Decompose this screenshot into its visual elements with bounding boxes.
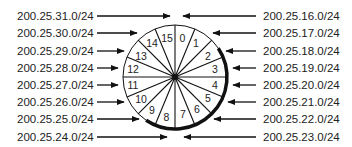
segment-4: 4 bbox=[212, 79, 218, 91]
right-label-22: 200.25.22.0/24 bbox=[263, 113, 340, 125]
left-label-27: 200.25.27.0/24 bbox=[17, 79, 94, 91]
left-label-26: 200.25.26.0/24 bbox=[17, 96, 94, 108]
left-label-28: 200.25.28.0/24 bbox=[17, 62, 94, 74]
right-label-17: 200.25.17.0/24 bbox=[263, 27, 340, 39]
left-label-29: 200.25.29.0/24 bbox=[17, 45, 94, 57]
left-label-24: 200.25.24.0/24 bbox=[17, 131, 94, 143]
right-label-19: 200.25.19.0/24 bbox=[263, 62, 340, 74]
left-label-30: 200.25.30.0/24 bbox=[17, 27, 94, 39]
left-subnet-labels: 200.25.31.0/24 200.25.30.0/24 200.25.29.… bbox=[17, 10, 94, 143]
segment-15: 15 bbox=[161, 32, 173, 44]
segment-12: 12 bbox=[127, 63, 139, 75]
segment-11: 11 bbox=[128, 79, 139, 91]
left-label-31: 200.25.31.0/24 bbox=[17, 10, 94, 22]
right-label-18: 200.25.18.0/24 bbox=[263, 45, 340, 57]
left-label-25: 200.25.25.0/24 bbox=[17, 113, 94, 125]
segment-3: 3 bbox=[212, 63, 218, 75]
segment-5: 5 bbox=[205, 92, 211, 104]
segment-9: 9 bbox=[149, 104, 155, 116]
wheel-hub bbox=[172, 74, 178, 80]
subnet-wheel-diagram: 0 1 2 3 4 5 6 7 8 9 10 11 12 13 14 15 20… bbox=[0, 0, 352, 147]
segment-0: 0 bbox=[180, 32, 186, 44]
right-label-23: 200.25.23.0/24 bbox=[263, 131, 340, 143]
segment-10: 10 bbox=[135, 93, 147, 105]
segment-6: 6 bbox=[194, 103, 200, 115]
segment-14: 14 bbox=[146, 37, 158, 49]
segment-8: 8 bbox=[164, 111, 170, 123]
right-label-20: 200.25.20.0/24 bbox=[263, 79, 340, 91]
segment-2: 2 bbox=[205, 50, 211, 62]
right-label-21: 200.25.21.0/24 bbox=[263, 96, 340, 108]
segment-1: 1 bbox=[193, 37, 199, 49]
right-label-16: 200.25.16.0/24 bbox=[263, 10, 340, 22]
right-subnet-labels: 200.25.16.0/24 200.25.17.0/24 200.25.18.… bbox=[263, 10, 340, 143]
segment-7: 7 bbox=[180, 108, 186, 120]
segment-13: 13 bbox=[135, 50, 147, 62]
